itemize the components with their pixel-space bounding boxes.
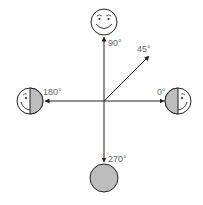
arrows: [45, 37, 164, 162]
face-90-icon: [91, 9, 117, 35]
label-180: 180°: [43, 87, 62, 97]
phase-diagram: 90° 45° 180° 0° 270°: [0, 0, 203, 205]
label-270: 270°: [108, 154, 127, 164]
face-180-icon: [17, 88, 43, 114]
face-270-icon: [90, 164, 118, 192]
arrow-45: [104, 56, 149, 101]
label-90: 90°: [108, 38, 122, 48]
label-45: 45°: [137, 44, 151, 54]
face-0-icon: [165, 88, 191, 114]
label-0: 0°: [157, 87, 166, 97]
